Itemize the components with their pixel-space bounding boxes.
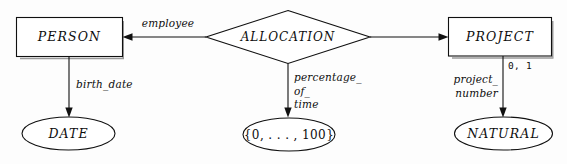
edge-label-project-number-line1: project_: [454, 73, 499, 86]
entity-person[interactable]: PERSON: [17, 18, 123, 57]
value-set-date-label: DATE: [47, 126, 88, 141]
edge-allocation-to-project: [370, 33, 449, 41]
relationship-allocation-label: ALLOCATION: [240, 30, 336, 44]
value-set-date[interactable]: DATE: [22, 117, 115, 150]
edge-label-birth-date: birth_date: [76, 78, 133, 91]
er-diagram: PERSON PROJECT ALLOCATION employee birth: [0, 0, 567, 164]
value-set-natural-label: NATURAL: [466, 126, 540, 141]
er-diagram-canvas: PERSON PROJECT ALLOCATION employee birth: [0, 0, 567, 164]
value-set-natural[interactable]: NATURAL: [455, 117, 553, 150]
edge-label-employee: employee: [142, 17, 195, 29]
edge-label-percentage-line2: of_: [294, 85, 311, 98]
relationship-allocation[interactable]: ALLOCATION: [206, 11, 370, 64]
arrow-head-to-date: [65, 108, 72, 118]
value-set-percent[interactable]: {0, . . . , 100}: [243, 118, 335, 151]
edge-label-percentage-line3: time: [294, 98, 319, 110]
edge-label-percentage-line1: percentage_: [294, 71, 362, 84]
edge-project-to-natural: project_ number 0, 1: [454, 56, 533, 118]
value-set-percent-label: {0, . . . , 100}: [244, 128, 334, 142]
arrow-head-to-person: [123, 33, 133, 41]
entity-person-label: PERSON: [37, 29, 101, 44]
cardinality-label-project-number: 0, 1: [508, 60, 532, 71]
edge-person-to-date: birth_date: [65, 57, 132, 118]
arrow-head-to-project: [439, 33, 449, 41]
entity-project-label: PROJECT: [465, 29, 534, 44]
arrow-head-to-natural: [499, 108, 506, 118]
entity-project[interactable]: PROJECT: [449, 18, 552, 57]
arrow-head-to-percent: [284, 108, 291, 118]
edge-allocation-to-percent: percentage_ of_ time: [284, 64, 362, 118]
edge-label-project-number-line2: number: [455, 87, 498, 99]
edge-allocation-to-person: employee: [123, 17, 207, 41]
